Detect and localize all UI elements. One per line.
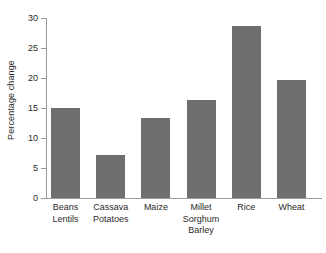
y-axis-tick [41, 168, 46, 169]
y-axis-tick [41, 78, 46, 79]
y-axis-tick-label: 5 [0, 163, 38, 173]
y-axis-tick-label: 0 [0, 193, 38, 203]
bar [187, 100, 216, 198]
y-axis-tick-label: 20 [0, 73, 38, 83]
bar [51, 108, 80, 198]
bar [277, 80, 306, 198]
bar-chart: Percentage change 051015202530 BeansLent… [0, 0, 326, 253]
bar [96, 155, 125, 198]
y-axis-tick-label: 30 [0, 13, 38, 23]
y-axis-tick-label: 10 [0, 133, 38, 143]
y-axis-tick [41, 108, 46, 109]
y-axis-tick [41, 138, 46, 139]
y-axis-tick [41, 18, 46, 19]
plot-area [47, 14, 319, 198]
x-axis-line [41, 198, 322, 199]
x-axis-label: Wheat [260, 202, 324, 214]
x-axis-label-line: Wheat [260, 202, 324, 214]
y-axis-tick [41, 198, 46, 199]
y-axis-tick-label: 25 [0, 43, 38, 53]
x-axis-label-line: Barley [169, 225, 233, 237]
x-axis-label-line: Sorghum [169, 214, 233, 226]
bar [232, 26, 261, 198]
y-axis-tick [41, 48, 46, 49]
y-axis-tick-label: 15 [0, 103, 38, 113]
x-axis-label-line: Potatoes [79, 214, 143, 226]
bar [141, 118, 170, 198]
